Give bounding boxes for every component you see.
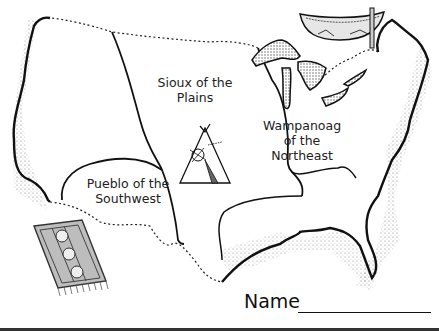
lake-michigan (282, 68, 291, 108)
teepee-icon (180, 124, 230, 183)
east-coast-shading (356, 40, 432, 290)
name-label: Name (244, 290, 300, 312)
rug-icon (34, 220, 108, 296)
region-label-pueblo: Pueblo of the Southwest (78, 176, 178, 206)
region-label-wampanoag: Wampanoag of the Northeast (262, 118, 342, 163)
gulf-coast-shading (220, 230, 372, 285)
bottom-divider (0, 328, 439, 331)
name-input-line[interactable] (298, 312, 431, 313)
southeast-boundary (292, 167, 356, 178)
lake-ontario (344, 70, 366, 86)
lake-huron (298, 61, 326, 90)
region-label-sioux: Sioux of the Plains (150, 75, 240, 105)
us-regions-map (0, 0, 439, 333)
lake-superior (252, 40, 300, 66)
canoe-icon (300, 8, 384, 48)
canada-border (52, 18, 258, 48)
plains-west-boundary (112, 32, 184, 244)
lake-erie (322, 88, 348, 106)
